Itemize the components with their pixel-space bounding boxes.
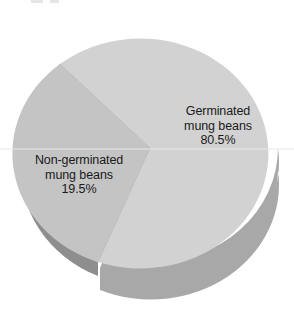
pie-chart-figure: Germinated mung beans 80.5% Non-germinat… (0, 0, 294, 319)
pie-chart-canvas (0, 0, 294, 319)
